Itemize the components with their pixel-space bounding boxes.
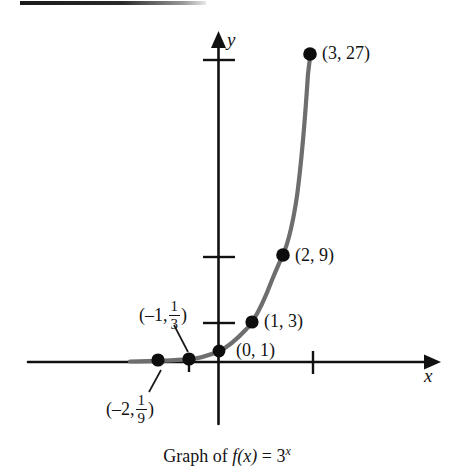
fraction-one-third-numerator: 1 xyxy=(169,299,181,316)
point-label-neg1-one-third: (–1,13) xyxy=(139,300,187,333)
caption-argument: (x) xyxy=(237,446,257,466)
fraction-one-ninth: 19 xyxy=(136,393,148,426)
exponential-graph-figure: y x (3, 27) (2, 9) (1, 3) (0, 1) (–1,13)… xyxy=(0,0,454,472)
y-axis xyxy=(203,31,235,424)
point-neg1-one-third[interactable] xyxy=(182,352,195,365)
figure-caption: Graph of f(x) = 3x xyxy=(0,446,454,467)
caption-exponent: x xyxy=(285,444,290,458)
point-label-neg2-one-ninth: (–2,19) xyxy=(106,394,154,427)
point-label-neg1-open: (–1, xyxy=(139,305,168,325)
point-label-neg1-close: ) xyxy=(181,305,187,325)
point-label-neg2-close: ) xyxy=(148,399,154,419)
y-axis-arrowhead xyxy=(211,31,226,48)
point-1-3[interactable] xyxy=(245,315,258,328)
point-0-1[interactable] xyxy=(213,345,226,358)
point-label-neg2-open: (–2, xyxy=(106,399,135,419)
fraction-one-third-denominator: 3 xyxy=(169,316,181,332)
point-2-9[interactable] xyxy=(276,248,290,262)
point-label-1-3: (1, 3) xyxy=(264,312,303,330)
leader-line-neg-two-ninth xyxy=(149,370,161,392)
x-axis-label: x xyxy=(424,366,432,385)
fraction-one-ninth-denominator: 9 xyxy=(136,410,148,426)
x-axis xyxy=(28,351,441,374)
caption-equals: = xyxy=(262,446,272,466)
y-axis-label: y xyxy=(227,30,235,49)
coordinate-plot xyxy=(0,0,454,472)
point-neg2-one-ninth[interactable] xyxy=(151,353,164,366)
fraction-one-ninth-numerator: 1 xyxy=(136,393,148,410)
caption-prefix: Graph of xyxy=(163,446,227,466)
point-3-27[interactable] xyxy=(303,47,317,61)
fraction-one-third: 13 xyxy=(169,299,181,332)
point-label-0-1: (0, 1) xyxy=(236,341,275,359)
point-label-3-27: (3, 27) xyxy=(322,44,370,62)
point-label-2-9: (2, 9) xyxy=(295,246,334,264)
